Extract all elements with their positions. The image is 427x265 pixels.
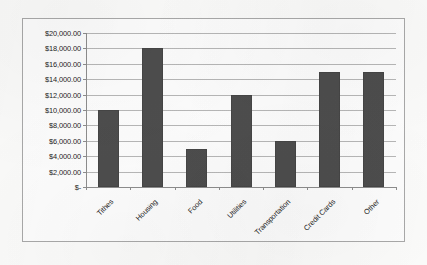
bar [98, 110, 119, 187]
x-axis-tick-mark [175, 187, 176, 190]
chart-frame: $20,000.00$18,000.00$16,000.00$14,000.00… [22, 18, 405, 242]
gridline [86, 64, 396, 65]
gridline [86, 79, 396, 80]
y-axis-tick-label: $4,000.00 [19, 152, 81, 161]
y-axis-tick-label: $10,000.00 [19, 106, 81, 115]
x-axis-tick-mark [352, 187, 353, 190]
x-axis-tick-mark [396, 187, 397, 190]
x-axis-tick-mark [307, 187, 308, 190]
bar [142, 48, 163, 187]
y-axis-tick-label: $12,000.00 [19, 90, 81, 99]
x-axis-line [86, 187, 397, 188]
bar [363, 72, 384, 188]
bar [275, 141, 296, 187]
gridline [86, 33, 396, 34]
x-axis-category-label: Credit Cards [295, 197, 337, 239]
y-axis-tick-label: $2,000.00 [19, 167, 81, 176]
bar [186, 149, 207, 188]
y-axis-tick-label: $6,000.00 [19, 136, 81, 145]
gridline [86, 48, 396, 49]
x-axis-category-label: Transportation [251, 197, 293, 239]
x-axis-tick-mark [130, 187, 131, 190]
x-axis-category-label: Tithes [74, 197, 116, 239]
bar [319, 72, 340, 188]
y-axis-tick-label: $16,000.00 [19, 59, 81, 68]
x-axis-category-label: Other [339, 197, 381, 239]
y-axis-line [86, 33, 87, 188]
x-axis-category-label: Housing [118, 197, 160, 239]
y-axis-tick-label: $18,000.00 [19, 44, 81, 53]
y-axis-tick-label: $8,000.00 [19, 121, 81, 130]
x-axis-category-label: Utilities [206, 197, 248, 239]
screenshot-root: $20,000.00$18,000.00$16,000.00$14,000.00… [0, 0, 427, 265]
plot-area [86, 33, 396, 187]
y-axis-tick-label: $20,000.00 [19, 29, 81, 38]
x-axis-category-label: Food [162, 197, 204, 239]
bar [231, 95, 252, 187]
y-axis-tick-label: $14,000.00 [19, 75, 81, 84]
x-axis-tick-mark [263, 187, 264, 190]
x-axis-tick-mark [86, 187, 87, 190]
y-axis-tick-label: $- [19, 183, 81, 192]
y-axis-labels: $20,000.00$18,000.00$16,000.00$14,000.00… [23, 33, 81, 187]
x-axis-tick-mark [219, 187, 220, 190]
